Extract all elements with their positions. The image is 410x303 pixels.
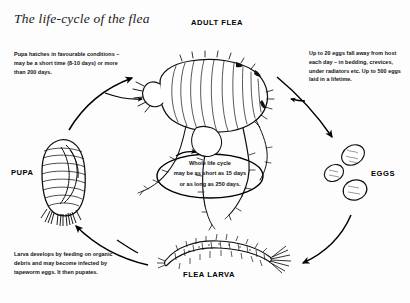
center-note-line-2: may be as short as 15 days (159, 168, 261, 178)
note-pupa-hatching: Pupa hatches in favourable conditions – … (14, 50, 122, 76)
page-title: The life-cycle of the flea (14, 11, 150, 27)
diagram-canvas: The life-cycle of the flea Pupa hatches … (0, 0, 410, 303)
stage-label-adult-flea: ADULT FLEA (191, 18, 243, 27)
stage-label-pupa: PUPA (11, 168, 34, 177)
center-note-line-1: Whole life cycle (159, 158, 261, 168)
center-note: Whole life cycle may be as short as 15 d… (159, 158, 261, 189)
stage-label-flea-larva: FLEA LARVA (183, 270, 235, 279)
stage-label-eggs: EGGS (371, 169, 395, 178)
note-larva-development: Larva develops by feeding on organic deb… (14, 250, 126, 276)
center-note-line-3: or as long as 250 days. (159, 179, 261, 189)
note-egg-laying: Up to 20 eggs fall away from host each d… (309, 49, 405, 84)
